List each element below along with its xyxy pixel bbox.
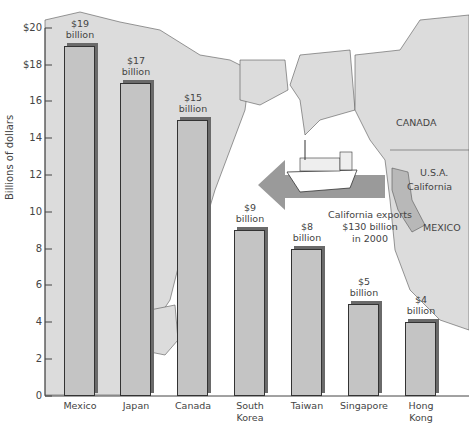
- map-label-california: California: [407, 181, 452, 193]
- y-tick: $18: [14, 59, 42, 70]
- bar-singapore: [348, 304, 379, 396]
- y-tick: 6: [14, 279, 42, 290]
- map-label-canada: CANADA: [396, 117, 436, 129]
- y-tick: 0: [14, 390, 42, 401]
- y-tick: $20: [14, 22, 42, 33]
- y-tick: 12: [14, 169, 42, 180]
- y-tick: 2: [14, 353, 42, 364]
- cargo-ship-icon: [287, 140, 357, 192]
- bar-canada: [177, 120, 208, 396]
- bar-taiwan: [291, 249, 322, 396]
- x-category-label: HongKong: [386, 400, 456, 424]
- bar-mexico: [64, 46, 95, 396]
- y-tick: 14: [14, 132, 42, 143]
- data-label: $9billion: [220, 202, 280, 224]
- y-tick: 8: [14, 243, 42, 254]
- y-axis-label: Billions of dollars: [4, 115, 15, 200]
- chart-canvas: Billions of dollars 0 2 4 6 8 10 12 14 1…: [0, 0, 469, 428]
- data-label: $15billion: [163, 92, 223, 114]
- data-label: $4billion: [391, 294, 451, 316]
- bar-hong-kong: [405, 322, 436, 396]
- bar-japan: [120, 83, 151, 396]
- y-tick: 10: [14, 206, 42, 217]
- data-label: $19billion: [50, 18, 110, 40]
- data-label: $17billion: [106, 55, 166, 77]
- exports-annotation: California exports $130 billion in 2000: [322, 209, 418, 245]
- bar-south-korea: [234, 230, 265, 396]
- y-tick: 16: [14, 95, 42, 106]
- map-label-usa: U.S.A.: [420, 167, 448, 179]
- data-label: $5billion: [334, 276, 394, 298]
- y-tick: 4: [14, 316, 42, 327]
- map-label-mexico: MEXICO: [423, 222, 461, 234]
